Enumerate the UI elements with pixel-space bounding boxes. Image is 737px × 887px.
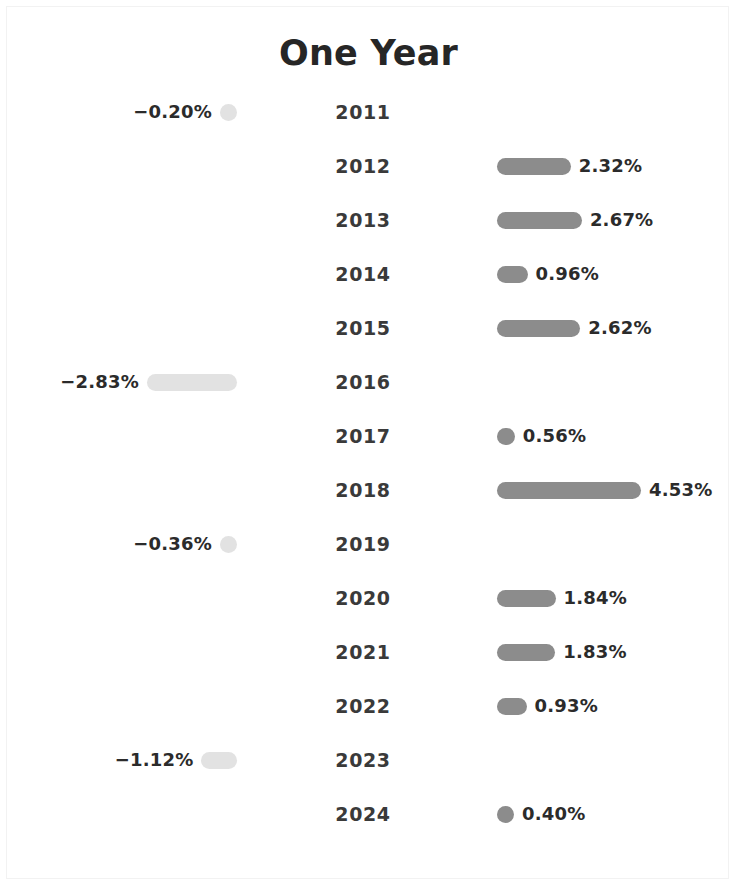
- bar-row: 20201.84%: [0, 578, 737, 618]
- bar-row: 20140.96%: [0, 254, 737, 294]
- bar-positive: [497, 266, 528, 283]
- bar-negative: [201, 752, 237, 769]
- bar-row: 20240.40%: [0, 794, 737, 834]
- bar-row: 2016−2.83%: [0, 362, 737, 402]
- bar-value-label: 2.67%: [590, 209, 653, 230]
- bar-value-label: −1.12%: [0, 749, 193, 770]
- bar-row: 2011−0.20%: [0, 92, 737, 132]
- bar-value-label: −0.20%: [12, 101, 212, 122]
- bar-row: 2023−1.12%: [0, 740, 737, 780]
- year-label: 2014: [318, 263, 408, 285]
- bar-value-label: 0.40%: [522, 803, 585, 824]
- bar-positive: [497, 158, 571, 175]
- year-label: 2018: [318, 479, 408, 501]
- bar-row: 20170.56%: [0, 416, 737, 456]
- chart-page: One Year 2011−0.20%20122.32%20132.67%201…: [0, 0, 737, 887]
- bar-value-label: 4.53%: [649, 479, 712, 500]
- year-label: 2017: [318, 425, 408, 447]
- year-label: 2020: [318, 587, 408, 609]
- bar-negative: [220, 536, 237, 553]
- bar-row: 20132.67%: [0, 200, 737, 240]
- year-label: 2016: [318, 371, 408, 393]
- year-label: 2019: [318, 533, 408, 555]
- bar-value-label: 1.83%: [563, 641, 626, 662]
- year-label: 2024: [318, 803, 408, 825]
- bar-row: 20211.83%: [0, 632, 737, 672]
- bar-positive: [497, 590, 556, 607]
- bar-row: 20220.93%: [0, 686, 737, 726]
- year-label: 2015: [318, 317, 408, 339]
- bar-positive: [497, 320, 580, 337]
- bar-value-label: 0.93%: [535, 695, 598, 716]
- bar-row: 20184.53%: [0, 470, 737, 510]
- bar-value-label: −2.83%: [0, 371, 139, 392]
- year-label: 2013: [318, 209, 408, 231]
- bar-value-label: 0.56%: [523, 425, 586, 446]
- bar-value-label: 2.32%: [579, 155, 642, 176]
- bar-negative: [220, 104, 237, 121]
- bar-positive: [497, 212, 582, 229]
- bar-positive: [497, 698, 527, 715]
- bar-positive: [497, 428, 515, 445]
- bar-positive: [497, 482, 641, 499]
- bar-value-label: 0.96%: [536, 263, 599, 284]
- bar-value-label: 1.84%: [564, 587, 627, 608]
- bar-row: 2019−0.36%: [0, 524, 737, 564]
- year-label: 2023: [318, 749, 408, 771]
- year-label: 2012: [318, 155, 408, 177]
- bar-positive: [497, 644, 555, 661]
- year-label: 2011: [318, 101, 408, 123]
- year-label: 2021: [318, 641, 408, 663]
- bar-chart-plot-area: 2011−0.20%20122.32%20132.67%20140.96%201…: [0, 0, 737, 887]
- bar-value-label: −0.36%: [12, 533, 212, 554]
- bar-positive: [497, 806, 514, 823]
- bar-negative: [147, 374, 237, 391]
- year-label: 2022: [318, 695, 408, 717]
- bar-value-label: 2.62%: [588, 317, 651, 338]
- bar-row: 20152.62%: [0, 308, 737, 348]
- bar-row: 20122.32%: [0, 146, 737, 186]
